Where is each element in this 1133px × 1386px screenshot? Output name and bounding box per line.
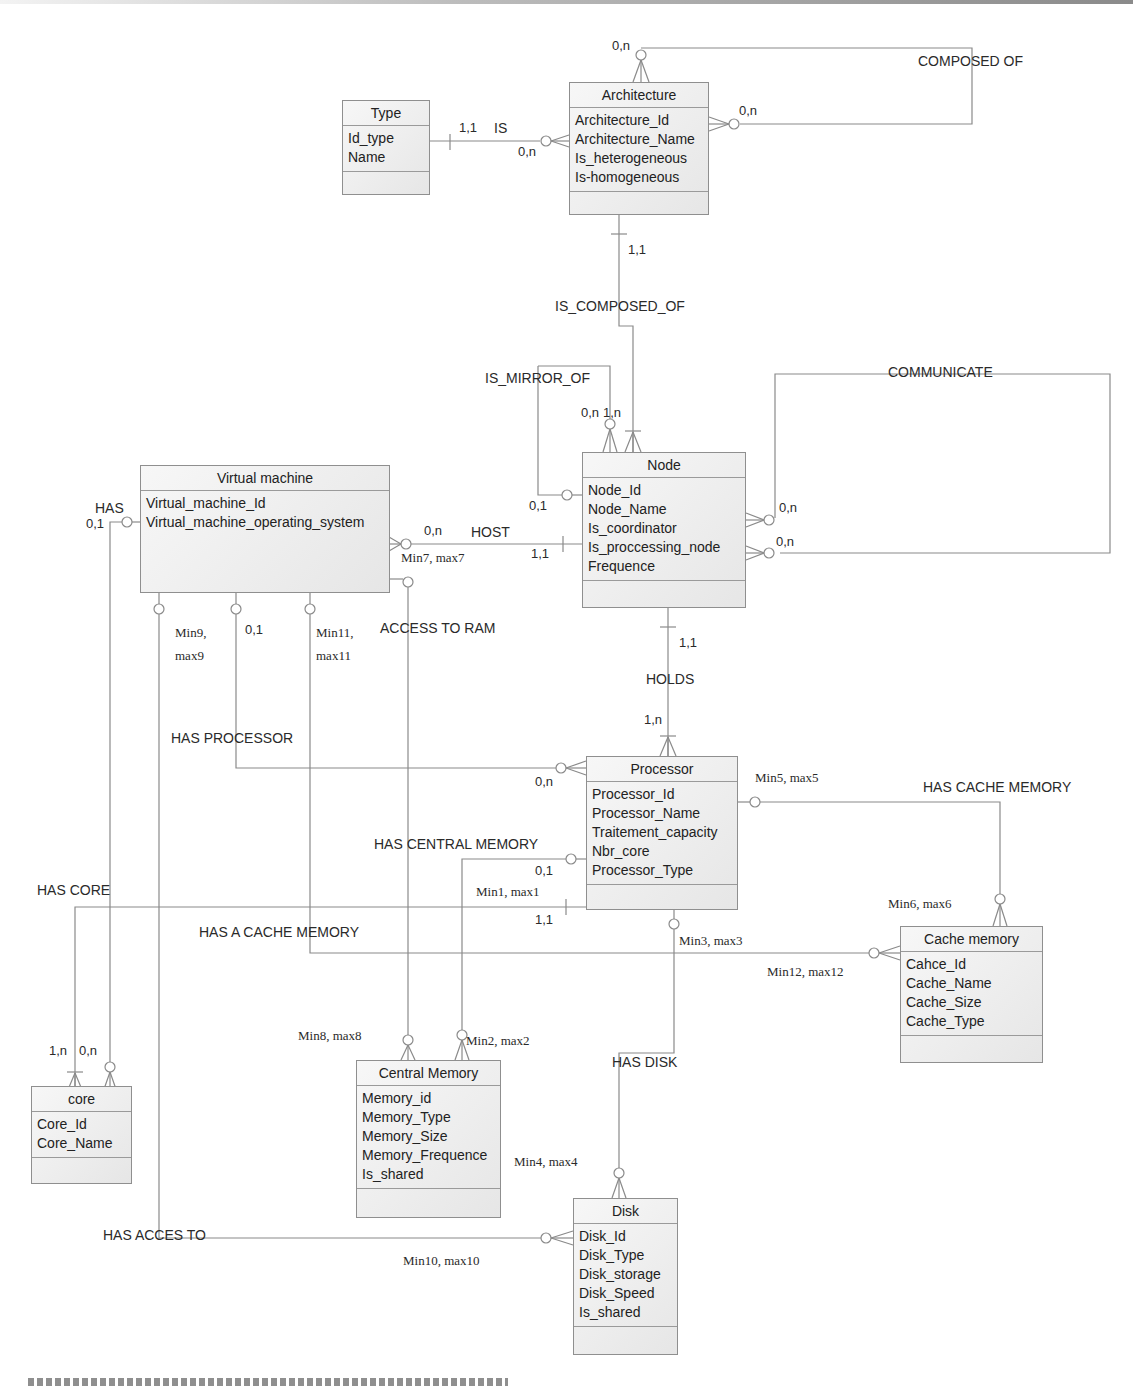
cardinality-label: 0,1 [245, 622, 263, 637]
attribute: Id_type [348, 129, 424, 148]
relationship-has-label: HAS [95, 500, 124, 516]
entity-type-attributes: Id_type Name [343, 126, 429, 172]
entity-architecture-attributes: Architecture_Id Architecture_Name Is_het… [570, 108, 708, 192]
entity-disk[interactable]: Disk Disk_Id Disk_Type Disk_storage Disk… [573, 1198, 678, 1355]
entity-architecture-title: Architecture [570, 83, 708, 108]
entity-architecture-operations [570, 192, 708, 214]
attribute: Architecture_Name [575, 130, 703, 149]
relationship-host-label: HOST [471, 524, 510, 540]
cardinality-label: 0,n [424, 523, 442, 538]
cardinality-label: 1,n [603, 405, 621, 420]
entity-virtual-machine[interactable]: Virtual machine Virtual_machine_Id Virtu… [140, 465, 390, 593]
cardinality-label: 0,1 [86, 516, 104, 531]
cardinality-label: 1,1 [679, 635, 697, 650]
attribute: Cache_Name [906, 974, 1037, 993]
attribute: Name [348, 148, 424, 167]
attribute: Disk_Speed [579, 1284, 672, 1303]
attribute: Processor_Type [592, 861, 732, 880]
attribute: Is-homogeneous [575, 168, 703, 187]
cardinality-minmax-label: Min9, [175, 625, 206, 641]
cardinality-minmax-label: Min7, max7 [401, 550, 465, 566]
attribute: Processor_Id [592, 785, 732, 804]
relationship-has-core-label: HAS CORE [37, 882, 110, 898]
entity-node-operations [583, 581, 745, 603]
attribute: Processor_Name [592, 804, 732, 823]
entity-processor-title: Processor [587, 757, 737, 782]
truncated-caption-text [28, 1378, 508, 1386]
cardinality-minmax-label: Min3, max3 [679, 933, 743, 949]
relationship-lines [0, 0, 1133, 1386]
attribute: Node_Id [588, 481, 740, 500]
entity-node-title: Node [583, 453, 745, 478]
entity-architecture[interactable]: Architecture Architecture_Id Architectur… [569, 82, 709, 215]
attribute: Frequence [588, 557, 740, 576]
entity-processor-attributes: Processor_Id Processor_Name Traitement_c… [587, 782, 737, 885]
cardinality-label: 0,n [535, 774, 553, 789]
attribute: Memory_Frequence [362, 1146, 495, 1165]
attribute: Is_coordinator [588, 519, 740, 538]
cardinality-minmax-label: Min11, [316, 625, 353, 641]
cardinality-label: 0,1 [535, 863, 553, 878]
attribute: Is_heterogeneous [575, 149, 703, 168]
attribute: Disk_Id [579, 1227, 672, 1246]
attribute: Is_proccessing_node [588, 538, 740, 557]
relationship-composed-of-label: COMPOSED OF [918, 53, 1023, 69]
cardinality-label: 1,n [644, 712, 662, 727]
entity-core[interactable]: core Core_Id Core_Name [31, 1086, 132, 1184]
relationship-is-composed-of-label: IS_COMPOSED_OF [555, 298, 685, 314]
entity-node-attributes: Node_Id Node_Name Is_coordinator Is_proc… [583, 478, 745, 581]
cardinality-label: 0,n [79, 1043, 97, 1058]
entity-disk-attributes: Disk_Id Disk_Type Disk_storage Disk_Spee… [574, 1224, 677, 1327]
attribute: Is_shared [362, 1165, 495, 1184]
attribute: Cahce_Id [906, 955, 1037, 974]
cardinality-minmax-label: Min1, max1 [476, 884, 540, 900]
entity-type-title: Type [343, 101, 429, 126]
attribute: Disk_storage [579, 1265, 672, 1284]
entity-central-memory-operations [357, 1189, 500, 1211]
attribute: Architecture_Id [575, 111, 703, 130]
cardinality-minmax-label: Min6, max6 [888, 896, 952, 912]
cardinality-label: 0,n [612, 38, 630, 53]
entity-disk-title: Disk [574, 1199, 677, 1224]
attribute: Is_shared [579, 1303, 672, 1322]
cardinality-minmax-label: Min8, max8 [298, 1028, 362, 1044]
entity-central-memory[interactable]: Central Memory Memory_id Memory_Type Mem… [356, 1060, 501, 1218]
entity-processor-operations [587, 885, 737, 907]
attribute: Memory_id [362, 1089, 495, 1108]
cardinality-label: 0,1 [529, 498, 547, 513]
entity-cache-memory[interactable]: Cache memory Cahce_Id Cache_Name Cache_S… [900, 926, 1043, 1063]
entity-node[interactable]: Node Node_Id Node_Name Is_coordinator Is… [582, 452, 746, 608]
attribute: Virtual_machine_Id [146, 494, 384, 513]
attribute: Nbr_core [592, 842, 732, 861]
attribute: Cache_Size [906, 993, 1037, 1012]
cardinality-label: 1,1 [535, 912, 553, 927]
relationship-is-label: IS [494, 120, 507, 136]
relationship-access-to-ram-label: ACCESS TO RAM [380, 620, 495, 636]
attribute: Core_Name [37, 1134, 126, 1153]
entity-cache-memory-operations [901, 1036, 1042, 1058]
entity-cache-memory-title: Cache memory [901, 927, 1042, 952]
attribute: Cache_Type [906, 1012, 1037, 1031]
relationship-has-processor-label: HAS PROCESSOR [171, 730, 293, 746]
entity-core-title: core [32, 1087, 131, 1112]
entity-virtual-machine-title: Virtual machine [141, 466, 389, 491]
relationship-has-disk-label: HAS DISK [612, 1054, 677, 1070]
entity-core-operations [32, 1158, 131, 1180]
attribute: Disk_Type [579, 1246, 672, 1265]
relationship-has-a-cache-memory-label: HAS A CACHE MEMORY [199, 924, 359, 940]
cardinality-minmax-label: Min10, max10 [403, 1253, 480, 1269]
entity-virtual-machine-attributes: Virtual_machine_Id Virtual_machine_opera… [141, 491, 389, 536]
entity-central-memory-title: Central Memory [357, 1061, 500, 1086]
cardinality-minmax-label: Min12, max12 [767, 964, 844, 980]
cardinality-label: 1,1 [459, 120, 477, 135]
attribute: Core_Id [37, 1115, 126, 1134]
cardinality-label: 1,n [49, 1043, 67, 1058]
entity-processor[interactable]: Processor Processor_Id Processor_Name Tr… [586, 756, 738, 910]
entity-central-memory-attributes: Memory_id Memory_Type Memory_Size Memory… [357, 1086, 500, 1189]
attribute: Memory_Size [362, 1127, 495, 1146]
cardinality-label: 0,n [518, 144, 536, 159]
relationship-has-central-memory-label: HAS CENTRAL MEMORY [374, 836, 538, 852]
attribute: Node_Name [588, 500, 740, 519]
entity-core-attributes: Core_Id Core_Name [32, 1112, 131, 1158]
entity-type[interactable]: Type Id_type Name [342, 100, 430, 195]
